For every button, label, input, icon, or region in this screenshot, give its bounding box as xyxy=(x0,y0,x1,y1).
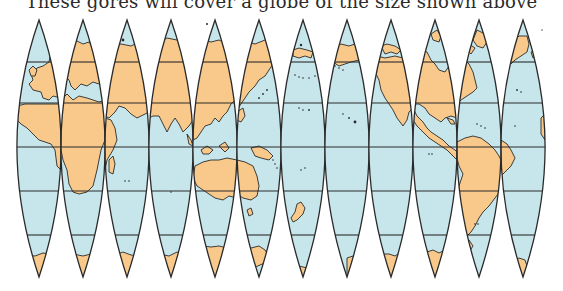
gore-7 xyxy=(278,15,328,280)
gore-9 xyxy=(366,15,416,280)
globe-gores xyxy=(0,0,563,291)
gore-12 xyxy=(498,15,548,280)
gore-5 xyxy=(190,15,240,280)
gore-4 xyxy=(146,15,196,280)
gore-3 xyxy=(102,15,152,280)
gore-2 xyxy=(58,15,108,280)
print-speck xyxy=(541,29,542,30)
gore-11 xyxy=(454,15,504,280)
gore-8 xyxy=(322,15,372,280)
gore-6 xyxy=(234,15,284,280)
gore-10 xyxy=(410,15,460,280)
gore-1 xyxy=(14,15,64,280)
